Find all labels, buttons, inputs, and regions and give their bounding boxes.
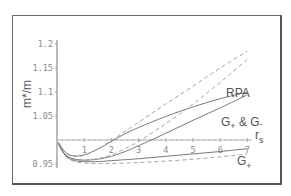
gplus-gminus-label: G+ & G- (221, 115, 263, 131)
rpa-label: RPA (226, 86, 250, 100)
y-tick-label: 0.95 (33, 159, 53, 169)
x-tick-label: 2 (109, 145, 114, 155)
x-tick-label: 6 (218, 145, 223, 155)
y-tick-label: 1.15 (33, 63, 53, 73)
effective-mass-chart: 0.951.051.11.151.2 1234567 m*/m rs RPA G… (0, 0, 291, 196)
y-tick-label: 1.2 (38, 39, 53, 49)
x-tick-label: 1 (82, 145, 87, 155)
x-tick-label: 4 (163, 145, 168, 155)
y-axis-label: m*/m (20, 80, 34, 108)
y-ticks: 0.951.051.11.151.2 (33, 39, 57, 169)
y-tick-label: 1.1 (38, 87, 53, 97)
y-tick-label: 1.05 (33, 111, 53, 121)
gplus-label: G+ (237, 154, 252, 171)
x-axis-label: rs (255, 128, 264, 145)
series-line (58, 51, 247, 156)
